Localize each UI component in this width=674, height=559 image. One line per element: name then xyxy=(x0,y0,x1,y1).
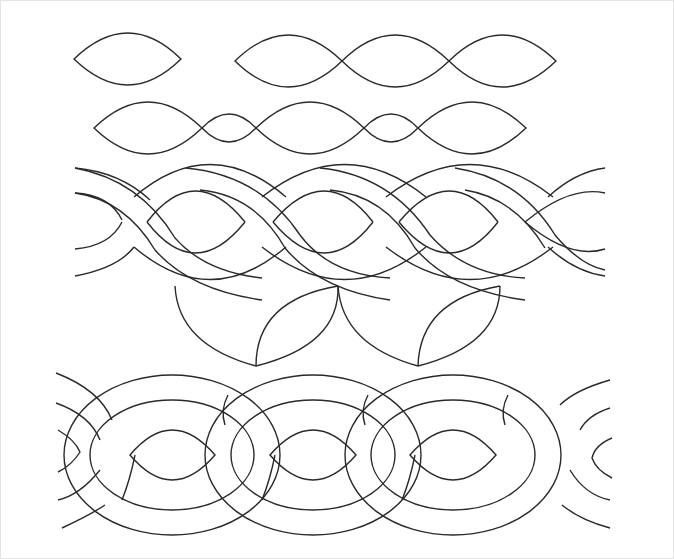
double-cable-braid xyxy=(56,373,612,535)
tulip-petals xyxy=(175,286,500,366)
quilting-pattern-diagram xyxy=(0,0,674,559)
triple-leaf-chain xyxy=(235,35,556,87)
leaf-chain-with-small-leaves xyxy=(94,102,526,154)
twisted-cable xyxy=(75,165,605,301)
single-leaf xyxy=(74,33,181,85)
